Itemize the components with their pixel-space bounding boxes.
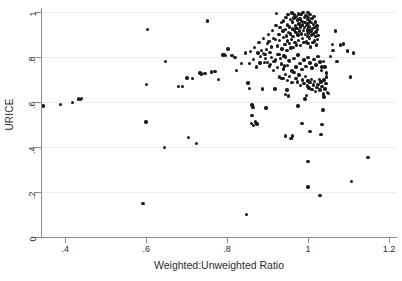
data-point	[282, 67, 285, 70]
data-point	[185, 76, 188, 79]
data-point	[245, 213, 248, 216]
data-point	[316, 28, 319, 31]
data-point	[306, 160, 309, 163]
data-point	[271, 29, 274, 32]
data-point	[302, 29, 305, 32]
data-point	[331, 49, 334, 52]
data-point	[312, 58, 315, 61]
data-point	[298, 62, 301, 65]
data-point	[334, 29, 337, 32]
data-point	[144, 120, 147, 123]
data-point	[255, 65, 258, 68]
data-point	[335, 60, 338, 63]
data-point	[267, 40, 270, 43]
data-point	[315, 43, 318, 46]
data-point	[262, 37, 265, 40]
data-point	[177, 85, 180, 88]
data-point	[316, 38, 319, 41]
data-point	[256, 51, 259, 54]
data-point	[321, 108, 324, 111]
data-point	[235, 69, 238, 72]
x-tick-label: 1	[293, 245, 323, 254]
data-point	[329, 55, 332, 58]
data-point	[79, 98, 82, 101]
data-point	[276, 66, 279, 69]
data-point	[299, 44, 302, 47]
data-point	[275, 12, 278, 15]
x-tick-mark	[146, 238, 147, 243]
data-point	[278, 39, 281, 42]
data-point	[274, 58, 277, 61]
data-point	[309, 45, 312, 48]
x-axis-title: Weighted:Unweighted Ratio	[41, 259, 397, 271]
data-point	[308, 37, 311, 40]
data-point	[290, 81, 293, 84]
x-axis-line	[41, 237, 397, 238]
data-point	[322, 95, 325, 98]
data-point	[303, 97, 306, 100]
x-tick-mark	[65, 238, 66, 243]
data-point	[195, 142, 198, 145]
data-point	[301, 37, 304, 40]
data-point	[327, 92, 330, 95]
data-point	[346, 49, 349, 52]
data-point	[306, 185, 309, 188]
data-point	[244, 51, 247, 54]
data-point	[318, 194, 321, 197]
data-point	[261, 87, 264, 90]
data-point	[324, 82, 327, 85]
y-axis-title-text: URICE	[4, 98, 15, 130]
data-point	[246, 81, 249, 84]
data-point	[274, 24, 277, 27]
data-point	[276, 44, 279, 47]
data-point	[314, 90, 317, 93]
plot-area	[41, 8, 397, 237]
data-point	[146, 28, 149, 31]
data-point	[325, 75, 328, 78]
data-point	[270, 56, 273, 59]
data-point	[307, 25, 310, 28]
data-point	[226, 47, 229, 50]
data-point	[288, 75, 291, 78]
data-point	[350, 180, 353, 183]
data-point	[145, 83, 148, 86]
data-point	[221, 53, 224, 56]
x-tick-label: .6	[131, 245, 161, 254]
data-point	[284, 134, 287, 137]
data-point	[314, 63, 317, 66]
data-point	[304, 65, 307, 68]
data-point	[272, 69, 275, 72]
data-point	[253, 46, 256, 49]
data-point	[285, 49, 288, 52]
data-point	[292, 57, 295, 60]
data-point	[284, 93, 287, 96]
data-point	[250, 103, 253, 106]
data-point	[300, 122, 303, 125]
data-point	[308, 13, 311, 16]
data-point	[164, 60, 167, 63]
data-point	[284, 16, 287, 19]
data-point	[320, 123, 323, 126]
data-point	[264, 106, 267, 109]
data-point	[291, 134, 294, 137]
gridline-y	[41, 12, 397, 13]
x-tick-label: .4	[50, 245, 80, 254]
data-point	[288, 42, 291, 45]
gridline-y	[41, 57, 397, 58]
data-point	[203, 72, 206, 75]
y-tick-label: 1	[29, 12, 38, 17]
data-point	[248, 62, 251, 65]
data-point	[366, 156, 369, 159]
x-tick-mark	[227, 238, 228, 243]
data-point	[310, 66, 313, 69]
data-point	[213, 70, 216, 73]
data-point	[264, 57, 267, 60]
data-point	[257, 41, 260, 44]
data-point	[277, 33, 280, 36]
data-point	[258, 61, 261, 64]
data-point	[325, 71, 328, 74]
data-point	[249, 50, 252, 53]
data-point	[163, 146, 166, 149]
data-point	[305, 94, 308, 97]
data-point	[268, 51, 271, 54]
